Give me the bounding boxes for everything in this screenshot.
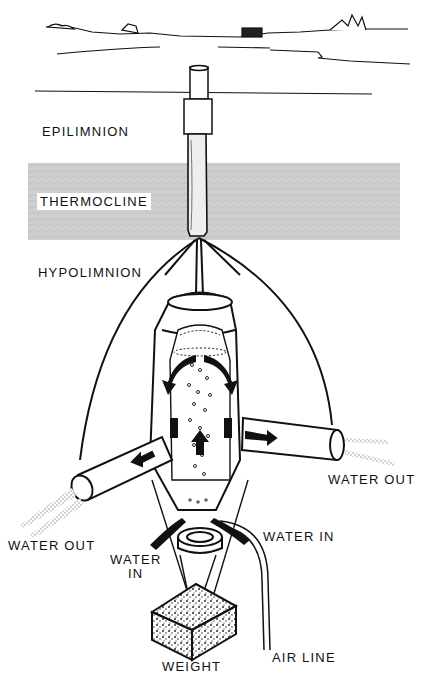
- aerator-diagram: EPILIMNION THERMOCLINE HYPOLIMNION WATER…: [0, 0, 422, 680]
- surface-float: [184, 66, 212, 135]
- water-in-right-label: WATER IN: [263, 530, 335, 543]
- epilimnion-label: EPILIMNION: [42, 125, 129, 138]
- intake-ring: [178, 528, 222, 553]
- right-outlet-pipe: [242, 418, 344, 460]
- shoreline-landscape: [35, 15, 410, 94]
- water-out-left-label: WATER OUT: [8, 539, 95, 552]
- diagram-canvas: [0, 0, 422, 680]
- figure-caption-clipped: [8, 672, 418, 680]
- cable-sleeve: [188, 134, 207, 236]
- water-in-left-line2: IN: [110, 567, 162, 581]
- water-in-left-label: WATER IN: [110, 553, 162, 581]
- air-line-label: AIR LINE: [272, 651, 336, 664]
- thermocline-label: THERMOCLINE: [37, 193, 151, 210]
- aerator-chamber: [150, 293, 240, 511]
- hypolimnion-label: HYPOLIMNION: [38, 266, 142, 279]
- water-out-right-label: WATER OUT: [328, 473, 415, 486]
- weight-block: [152, 584, 236, 660]
- water-in-left-line1: WATER: [110, 553, 162, 567]
